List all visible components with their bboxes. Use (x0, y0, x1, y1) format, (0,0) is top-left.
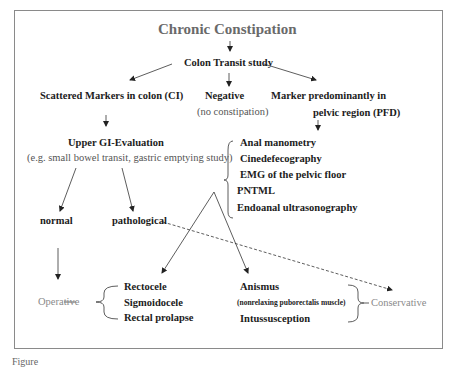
item-anismus: Anismus (240, 282, 279, 293)
test-pntml: PNTML (237, 186, 275, 197)
note-upper-gi-examples: (e.g. small bowel transit, gastric empty… (27, 153, 233, 164)
node-pathological: pathological (112, 216, 167, 227)
test-endoanal-ultrasonography: Endoanal ultrasonography (237, 203, 358, 214)
item-intussusception: Intussusception (240, 314, 310, 325)
test-cinedefecography: Cinedefecography (240, 154, 322, 165)
node-operative: Operative (38, 297, 79, 308)
node-colon-transit-study: Colon Transit study (184, 58, 273, 69)
node-marker-pelvic-line2: pelvic region (PFD) (313, 108, 400, 119)
test-anal-manometry: Anal manometry (240, 138, 316, 149)
title-chronic-constipation: Chronic Constipation (158, 22, 297, 37)
node-normal: normal (40, 216, 73, 227)
node-scattered-markers: Scattered Markers in colon (CI) (40, 91, 183, 102)
item-rectocele: Rectocele (124, 282, 167, 293)
item-rectal-prolapse: Rectal prolapse (124, 313, 194, 324)
note-no-constipation: (no constipation) (197, 107, 268, 118)
note-nonrelaxing-puborectalis: (nonrelaxing puborectalis muscle) (237, 299, 345, 307)
node-marker-pelvic-line1: Marker predominantly in (271, 91, 386, 102)
node-conservative: Conservative (371, 298, 426, 309)
item-sigmoidocele: Sigmoidocele (124, 298, 183, 309)
node-upper-gi-evaluation: Upper GI-Evaluation (68, 138, 164, 149)
test-emg-pelvic-floor: EMG of the pelvic floor (240, 170, 346, 181)
figure-caption: Figure (12, 356, 38, 367)
node-negative: Negative (205, 91, 244, 102)
